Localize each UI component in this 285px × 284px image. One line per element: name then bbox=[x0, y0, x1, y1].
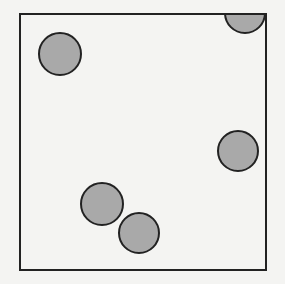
particle-circle-1 bbox=[39, 33, 81, 75]
particle-circle-4 bbox=[81, 183, 123, 225]
particle-circle-5 bbox=[119, 213, 159, 253]
particle-circle-2 bbox=[225, 0, 265, 33]
particle-circle-3 bbox=[218, 131, 258, 171]
particle-group bbox=[39, 0, 265, 253]
particles-diagram bbox=[0, 0, 285, 284]
